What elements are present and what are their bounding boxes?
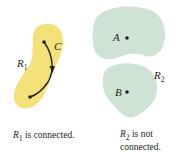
caption-r2-line2: connected.	[120, 142, 161, 152]
caption-r2-line1: R2 is not	[119, 129, 153, 142]
curve-start-point	[42, 40, 46, 44]
point-b-label: B	[115, 86, 122, 98]
region-r2-top-blob	[93, 7, 166, 60]
caption-r1: R1 is connected.	[12, 130, 75, 143]
connectedness-figure: C R1 A B R2 R1 is connected. R2 is not c…	[0, 0, 178, 154]
point-a-label: A	[112, 31, 120, 43]
region-r2-bottom-blob	[103, 63, 157, 117]
region-r1-label: R1	[16, 57, 28, 72]
point-b	[125, 90, 129, 94]
curve-c-label: C	[54, 40, 62, 52]
point-a	[125, 36, 129, 40]
curve-end-point	[28, 95, 32, 99]
